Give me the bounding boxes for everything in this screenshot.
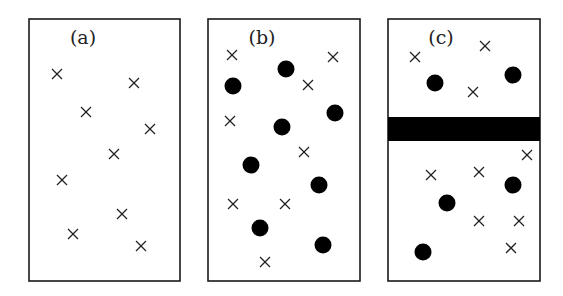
dot-marker-icon — [278, 61, 295, 78]
dot-marker-icon — [327, 105, 344, 122]
panel-frame — [208, 19, 360, 281]
panel-label: (b) — [249, 26, 276, 48]
panel-c: (c) — [388, 19, 540, 281]
dot-marker-icon — [315, 237, 332, 254]
dot-marker-icon — [225, 78, 242, 95]
panel-frame — [29, 19, 180, 281]
dot-marker-icon — [427, 75, 444, 92]
dot-marker-icon — [415, 244, 432, 261]
dot-marker-icon — [505, 67, 522, 84]
dot-marker-icon — [311, 177, 328, 194]
dot-marker-icon — [274, 119, 291, 136]
panel-label: (c) — [428, 26, 453, 48]
panel-frame — [388, 19, 540, 281]
panel-label: (a) — [70, 26, 96, 48]
barrier-wall — [388, 117, 540, 141]
dot-marker-icon — [243, 157, 260, 174]
dot-marker-icon — [252, 220, 269, 237]
panel-a: (a) — [29, 19, 180, 281]
dot-marker-icon — [439, 195, 456, 212]
dot-marker-icon — [505, 177, 522, 194]
particle-diagram: (a)(b)(c) — [0, 0, 563, 296]
panel-b: (b) — [208, 19, 360, 281]
